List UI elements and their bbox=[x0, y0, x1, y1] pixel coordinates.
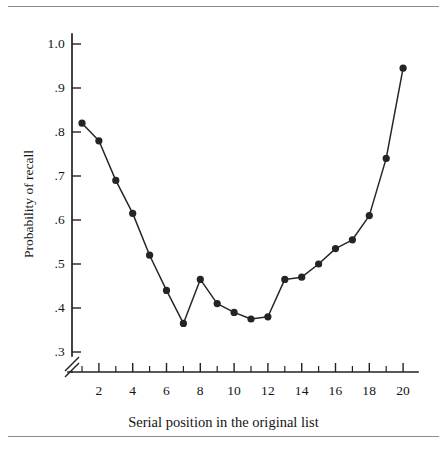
data-point-6[interactable] bbox=[163, 287, 170, 294]
data-point-3[interactable] bbox=[112, 177, 119, 184]
data-point-12[interactable] bbox=[264, 313, 271, 320]
data-point-2[interactable] bbox=[95, 137, 102, 144]
axes-group bbox=[65, 34, 418, 377]
data-point-16[interactable] bbox=[332, 245, 339, 252]
y-tick-label-p4: .4 bbox=[20, 301, 65, 315]
data-point-15[interactable] bbox=[315, 260, 322, 267]
data-point-10[interactable] bbox=[231, 309, 238, 316]
data-point-14[interactable] bbox=[298, 274, 305, 281]
data-point-5[interactable] bbox=[146, 252, 153, 259]
data-point-9[interactable] bbox=[214, 300, 221, 307]
data-point-8[interactable] bbox=[197, 276, 204, 283]
data-point-13[interactable] bbox=[281, 276, 288, 283]
figure-frame: .3.4.5.6.7.8.91.0 2468101214161820 Proba… bbox=[0, 0, 447, 449]
y-tick-label-p9: .9 bbox=[20, 81, 65, 95]
y-axis-break-slash-upper bbox=[65, 357, 79, 371]
x-axis-title: Serial position in the original list bbox=[0, 414, 447, 431]
y-axis-break-slash-lower bbox=[65, 363, 79, 377]
y-axis-title: Probability of recall bbox=[21, 124, 37, 284]
y-tick-label-1p0: 1.0 bbox=[20, 37, 65, 51]
ticks-group bbox=[72, 44, 403, 372]
data-point-1[interactable] bbox=[78, 120, 85, 127]
data-point-4[interactable] bbox=[129, 210, 136, 217]
data-point-20[interactable] bbox=[400, 65, 407, 72]
data-point-11[interactable] bbox=[247, 315, 254, 322]
recall-curve-series bbox=[78, 65, 406, 327]
x-tick-label-20: 20 bbox=[383, 384, 423, 398]
data-point-19[interactable] bbox=[383, 155, 390, 162]
series-line-0 bbox=[82, 68, 403, 323]
data-point-7[interactable] bbox=[180, 320, 187, 327]
plot-area bbox=[0, 0, 447, 449]
y-tick-label-p3: .3 bbox=[20, 345, 65, 359]
data-point-17[interactable] bbox=[349, 236, 356, 243]
data-point-18[interactable] bbox=[366, 212, 373, 219]
